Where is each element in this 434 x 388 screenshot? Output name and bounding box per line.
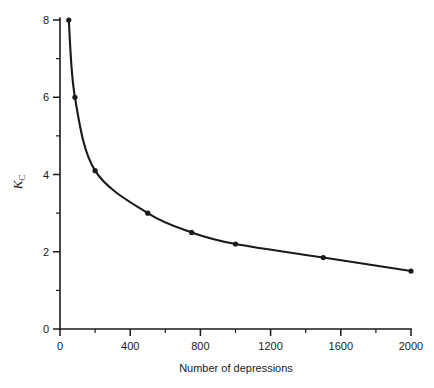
y-axis-title-text: KC [10, 175, 27, 191]
data-point-marker [189, 230, 194, 235]
y-tick-label: 2 [43, 246, 49, 258]
data-point-marker [408, 268, 413, 273]
data-series-curve [69, 20, 411, 271]
y-tick-label: 6 [43, 91, 49, 103]
x-axis-group: 0400800120016002000 [57, 329, 423, 352]
x-tick-label: 0 [57, 340, 63, 352]
y-tick-label: 8 [43, 14, 49, 26]
data-point-marker [321, 255, 326, 260]
y-tick-label: 4 [43, 169, 49, 181]
x-tick-label: 400 [121, 340, 139, 352]
x-tick-label: 1200 [258, 340, 282, 352]
data-point-marker [72, 95, 77, 100]
y-axis-tick-labels: 02468 [43, 14, 49, 335]
data-point-marker [93, 168, 98, 173]
chart-plot-area: 02468 0400800120016002000 Number of depr… [0, 0, 434, 388]
y-axis-major-ticks [53, 20, 60, 329]
x-tick-label: 2000 [399, 340, 423, 352]
x-tick-label: 1600 [329, 340, 353, 352]
y-axis-group: 02468 [43, 14, 60, 335]
x-axis-tick-labels: 0400800120016002000 [57, 340, 423, 352]
data-point-marker [145, 211, 150, 216]
x-axis-title: Number of depressions [179, 362, 293, 374]
chart-figure: 02468 0400800120016002000 Number of depr… [0, 0, 434, 388]
data-series-markers [66, 17, 413, 273]
x-tick-label: 800 [191, 340, 209, 352]
data-point-marker [66, 17, 71, 22]
y-axis-title-subscript: C [17, 175, 27, 181]
y-axis-title: KC [10, 175, 27, 191]
y-tick-label: 0 [43, 323, 49, 335]
data-point-marker [233, 241, 238, 246]
